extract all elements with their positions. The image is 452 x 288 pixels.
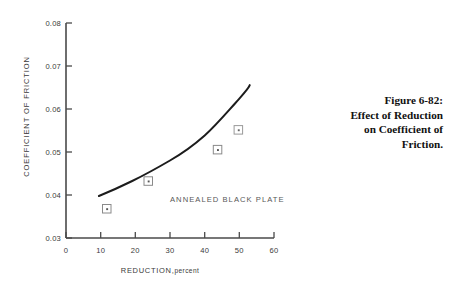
x-axis-title-sub: percent (174, 267, 199, 274)
data-point (234, 126, 243, 135)
y-tick-label-0.05: 0.05 (31, 148, 61, 157)
y-axis-title: COEFFICIENT OF FRICTION (22, 47, 31, 187)
y-tick-label-0.04: 0.04 (31, 191, 61, 200)
x-tick-label-30: 30 (158, 246, 182, 255)
data-point (144, 177, 153, 186)
x-axis-title-main: REDUCTION, (121, 266, 175, 275)
figure-caption-line-2: Effect of Reduction (307, 108, 443, 123)
x-tick-label-50: 50 (227, 246, 251, 255)
y-tick-label-0.06: 0.06 (31, 105, 61, 114)
x-axis-ticks (66, 232, 274, 238)
figure-caption-line-1: Figure 6-82: (307, 93, 443, 108)
y-axis-ticks (66, 23, 72, 238)
data-point (213, 145, 222, 154)
y-tick-label-0.03: 0.03 (31, 234, 61, 243)
figure-caption-line-4: Friction. (307, 137, 443, 152)
chart-figure: 0.08 0.07 0.06 0.05 0.04 0.03 0 10 20 30… (0, 0, 300, 288)
figure-caption: Figure 6-82: Effect of Reduction on Coef… (307, 93, 443, 151)
x-tick-label-60: 60 (262, 246, 286, 255)
y-tick-label-0.08: 0.08 (31, 19, 61, 28)
x-tick-label-10: 10 (89, 246, 113, 255)
figure-caption-line-3: on Coefficient of (307, 122, 443, 137)
chart-plot-area (0, 0, 300, 288)
y-tick-label-0.07: 0.07 (31, 62, 61, 71)
fitted-curve (99, 85, 250, 196)
data-point (103, 205, 112, 214)
x-tick-label-0: 0 (54, 246, 78, 255)
figure-page: 0.08 0.07 0.06 0.05 0.04 0.03 0 10 20 30… (0, 0, 452, 288)
x-tick-label-40: 40 (193, 246, 217, 255)
series-annotation-label: ANNEALED BLACK PLATE (170, 195, 285, 204)
x-tick-label-20: 20 (123, 246, 147, 255)
x-axis-title: REDUCTION,percent (60, 266, 260, 275)
